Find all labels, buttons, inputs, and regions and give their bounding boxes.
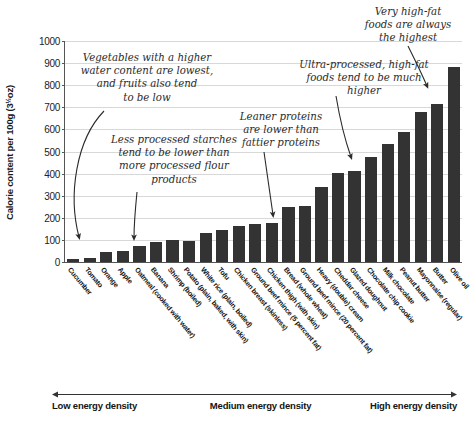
x-axis-tick-label-slot: Apple xyxy=(114,264,131,364)
bar[interactable] xyxy=(200,233,212,262)
bar[interactable] xyxy=(415,112,427,262)
x-axis-tick-label-slot: Potato (plain, baked, with skin) xyxy=(180,264,197,364)
x-axis-tick-label-slot: Oatmeal (cooked with water) xyxy=(130,264,147,364)
bar-slot xyxy=(264,41,281,262)
energy-density-arrow-axis xyxy=(52,390,457,399)
y-axis-title-tail: oz) xyxy=(4,85,15,98)
x-axis-tick-label-slot: Bread (whole wheat) xyxy=(280,264,297,364)
bar[interactable] xyxy=(133,246,145,262)
annotation-high-fat: Very high-fat foods are always the highe… xyxy=(352,5,464,45)
x-axis-tick-label-slot: Orange xyxy=(97,264,114,364)
bar[interactable] xyxy=(249,224,261,262)
density-label-high: High energy density xyxy=(370,400,457,411)
y-axis-tick-label: 200 xyxy=(44,212,60,223)
x-axis-tick-label-slot: White rice (plain, boiled) xyxy=(197,264,214,364)
bar-slot xyxy=(247,41,264,262)
x-axis-tick-label-slot: Mayonnaise (regular) xyxy=(412,264,429,364)
x-axis-tick-label-slot: Chicken breast (skinless) xyxy=(230,264,247,364)
bar[interactable] xyxy=(398,132,410,262)
x-axis-tick-label: Olive oil xyxy=(448,266,470,291)
bar[interactable] xyxy=(348,171,360,262)
bar-slot xyxy=(446,41,463,262)
bar[interactable] xyxy=(365,157,377,262)
x-axis-tick-label-slot: Banana xyxy=(147,264,164,364)
y-axis-tick-label: 500 xyxy=(44,146,60,157)
x-axis-tick-label-slot: Tofu xyxy=(213,264,230,364)
bar[interactable] xyxy=(100,252,112,262)
density-label-low: Low energy density xyxy=(52,400,137,411)
x-axis-tick-label-slot: Olive oil xyxy=(445,264,462,364)
x-axis-tick-label-slot: Chocolate chip cookie xyxy=(363,264,380,364)
x-axis-tick-label-slot: Cucumber xyxy=(64,264,81,364)
bar[interactable] xyxy=(266,223,278,262)
bar[interactable] xyxy=(382,144,394,262)
x-axis-tick-label-slot: Shrimp (boiled) xyxy=(164,264,181,364)
annotation-ultra-processed: Ultra-processed, high-fat foods tend to … xyxy=(288,58,440,98)
bar[interactable] xyxy=(233,226,245,262)
annotation-vegetables: Vegetables with a higher water content a… xyxy=(72,51,222,104)
bar[interactable] xyxy=(166,240,178,262)
y-axis-tick-label: 600 xyxy=(44,124,60,135)
bar[interactable] xyxy=(431,104,443,262)
x-axis-tick-label-slot: Glazed doughnut xyxy=(346,264,363,364)
y-axis-tick-label: 700 xyxy=(44,102,60,113)
x-axis-tick-label-slot: Ground beef mince (20 percent fat) xyxy=(296,264,313,364)
bar[interactable] xyxy=(315,187,327,262)
bar[interactable] xyxy=(332,173,344,262)
y-axis-tick-label: 1000 xyxy=(39,36,60,47)
y-axis-title-fraction: ½ xyxy=(5,98,12,103)
x-axis-tick-label-slot: Chicken thigh (with skin) xyxy=(263,264,280,364)
density-label-medium: Medium energy density xyxy=(210,400,311,411)
annotation-starches: Less processed starches tend to be lower… xyxy=(100,133,248,186)
energy-density-scale: Low energy density Medium energy density… xyxy=(52,390,457,420)
x-axis-tick-label-slot: Ground beef mince (5 percent fat) xyxy=(246,264,263,364)
y-axis-tick-label: 100 xyxy=(44,234,60,245)
x-axis-tick-label-slot: Heavy (double) cream xyxy=(313,264,330,364)
x-axis-tick-label-slot: Tomato xyxy=(81,264,98,364)
bar[interactable] xyxy=(299,206,311,262)
annotation-lean-proteins: Leaner proteins are lower than fattier p… xyxy=(228,110,334,150)
bar[interactable] xyxy=(216,230,228,262)
x-axis-tick-label: Tofu xyxy=(215,266,230,282)
bar[interactable] xyxy=(117,251,129,262)
x-axis-tick-label-slot: Butter xyxy=(429,264,446,364)
bar[interactable] xyxy=(150,242,162,262)
y-axis-tick-label: 0 xyxy=(55,257,60,268)
bar[interactable] xyxy=(282,207,294,262)
x-axis-tick-label-slot: Cheddar cheese xyxy=(329,264,346,364)
x-axis-tick-label-slot: Peanut butter xyxy=(396,264,413,364)
y-axis-tick-label: 900 xyxy=(44,58,60,69)
y-axis-tick-label: 300 xyxy=(44,190,60,201)
bar[interactable] xyxy=(448,67,460,262)
x-axis-tick-label-slot: Milk chocolate xyxy=(379,264,396,364)
x-axis-tick-labels: CucumberTomatoOrangeAppleOatmeal (cooked… xyxy=(64,264,462,364)
y-axis-title: Calorie content per 100g (3½oz) xyxy=(2,40,16,265)
y-axis-title-text: Calorie content per 100g (3 xyxy=(4,103,15,220)
y-axis-tick-label: 800 xyxy=(44,80,60,91)
bar[interactable] xyxy=(183,241,195,262)
y-axis-tick-label: 400 xyxy=(44,168,60,179)
